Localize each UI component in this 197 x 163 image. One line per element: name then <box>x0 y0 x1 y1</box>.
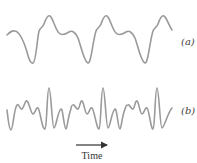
waveform-b <box>7 88 172 130</box>
waveform-diagram: (a) (b) Time <box>0 0 197 163</box>
time-axis-label: Time <box>82 150 103 161</box>
waveform-a <box>7 16 172 63</box>
panel-label-b: (b) <box>181 105 195 116</box>
panel-label-a: (a) <box>181 36 195 47</box>
